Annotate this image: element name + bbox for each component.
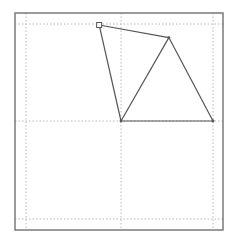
linkage-plot (0, 0, 233, 243)
vertex-dot-C (212, 120, 215, 123)
polygon-segments (99, 25, 213, 121)
vertex-dot-D (120, 120, 123, 123)
segment-DA (99, 25, 121, 121)
vertex-dot-B (167, 36, 170, 39)
start-square-marker-icon (97, 22, 102, 27)
segment-BC (169, 38, 213, 121)
segment-AB (99, 25, 169, 38)
segment-DB (121, 38, 169, 121)
vertex-markers (97, 22, 215, 122)
